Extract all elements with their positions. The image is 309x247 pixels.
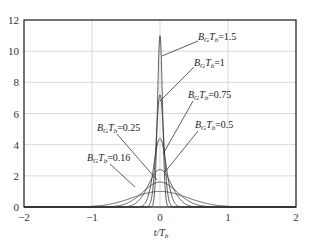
gaussian-impulse-response-chart: −2−1012024681012 BGTb=1.5BGTb=1BGTb=0.75… <box>0 0 309 247</box>
x-axis-label: t/Tb <box>154 227 169 240</box>
x-tick-label: 0 <box>157 211 163 223</box>
y-tick-label: 6 <box>14 108 20 120</box>
label-leader-line <box>163 101 193 154</box>
curve-label: BGTb=0.75 <box>188 89 231 102</box>
grid-lines <box>24 20 296 207</box>
y-tick-label: 2 <box>14 170 20 182</box>
y-tick-label: 10 <box>8 45 20 57</box>
x-tick-label: −1 <box>86 211 98 223</box>
label-leader-line <box>162 41 198 56</box>
x-tick-label: 2 <box>293 211 299 223</box>
curve-label: BGTb=0.25 <box>97 122 140 135</box>
x-tick-label: −2 <box>18 211 30 223</box>
y-tick-label: 8 <box>14 76 20 88</box>
curve-label: BGTb=1 <box>194 57 225 70</box>
y-tick-label: 0 <box>14 201 20 213</box>
curve-label: BGTb=1.5 <box>198 31 236 44</box>
y-tick-label: 4 <box>14 139 20 151</box>
label-leader-line <box>165 131 198 172</box>
curve-label: BGTb=0.16 <box>87 152 130 165</box>
y-tick-label: 12 <box>8 14 19 26</box>
x-tick-label: 1 <box>225 211 231 223</box>
